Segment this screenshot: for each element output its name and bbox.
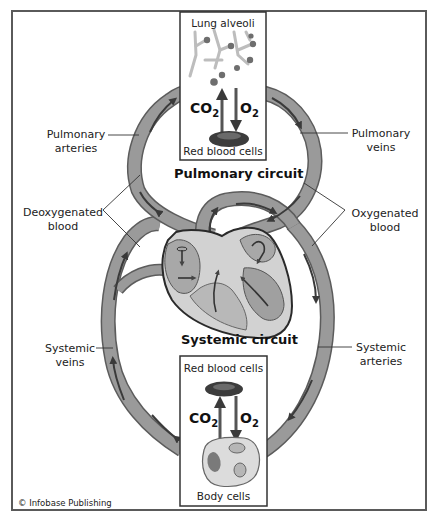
pulmonary-circuit-title: Pulmonary circuit bbox=[174, 166, 303, 181]
body-cells-label: Body cells bbox=[180, 490, 267, 502]
oxygenated-blood-label: Oxygenatedblood bbox=[346, 207, 424, 235]
circulation-diagram: Lung alveoli Red blood cells CO2 O2 Red … bbox=[0, 0, 440, 525]
systemic-arteries-label: Systemicarteries bbox=[352, 341, 410, 369]
body-exchange-box bbox=[180, 356, 267, 506]
body-co2-label: CO2 bbox=[189, 410, 218, 429]
copyright-credit: © Infobase Publishing bbox=[18, 498, 112, 508]
heart-illustration bbox=[162, 228, 292, 338]
body-rbc-label: Red blood cells bbox=[180, 362, 267, 374]
pulmonary-veins-label: Pulmonaryveins bbox=[348, 127, 414, 155]
body-o2-label: O2 bbox=[240, 410, 259, 429]
pulmonary-arteries-label: Pulmonaryarteries bbox=[44, 128, 108, 156]
lung-rbc-label: Red blood cells bbox=[180, 145, 266, 157]
systemic-veins-label: Systemicveins bbox=[44, 342, 96, 370]
lung-exchange-box bbox=[180, 12, 266, 160]
lung-alveoli-label: Lung alveoli bbox=[180, 17, 266, 29]
deoxygenated-blood-label: Deoxygenatedblood bbox=[22, 206, 104, 234]
vessel-artwork bbox=[0, 0, 440, 525]
systemic-circuit-title: Systemic circuit bbox=[181, 332, 298, 347]
lung-co2-label: CO2 bbox=[190, 100, 219, 119]
lung-o2-label: O2 bbox=[240, 100, 259, 119]
